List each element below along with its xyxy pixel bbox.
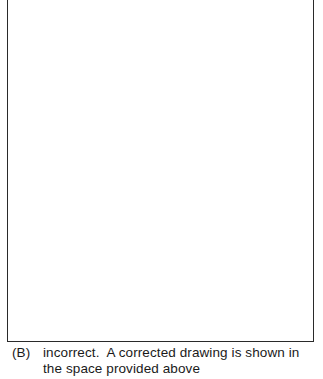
answer-option-label: (B)	[12, 345, 30, 361]
answer-text-line-2: the space provided above	[43, 361, 318, 377]
drawing-space-box	[7, 0, 314, 342]
answer-option-text: incorrect. A corrected drawing is shown …	[43, 345, 318, 377]
answer-text-line-1: incorrect. A corrected drawing is shown …	[43, 345, 318, 361]
